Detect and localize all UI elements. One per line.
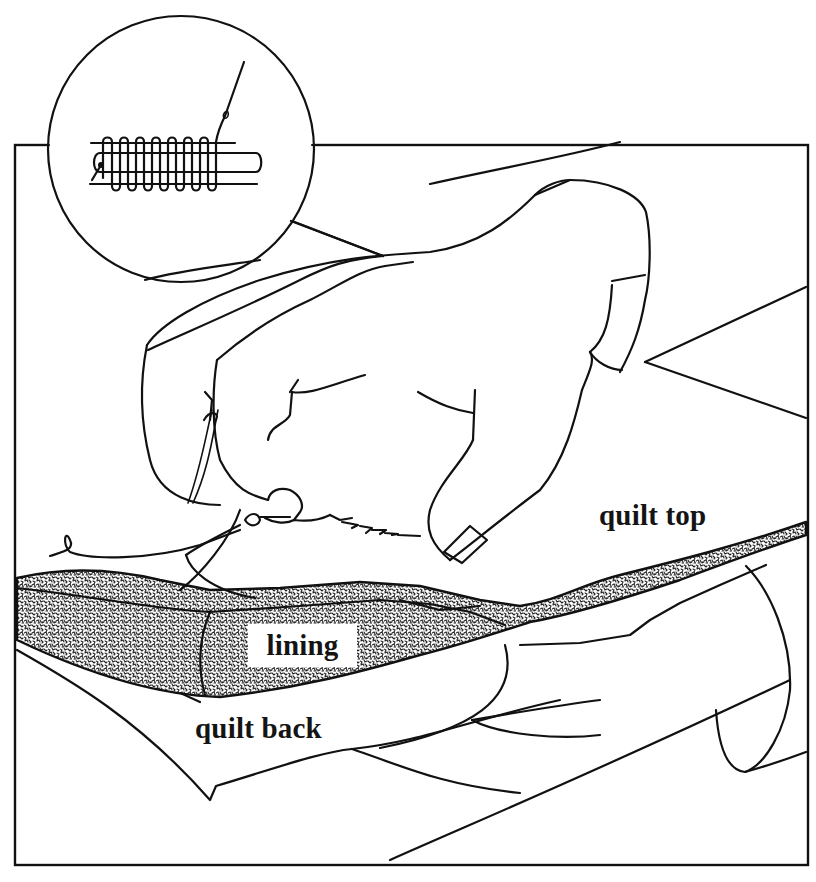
stitch-detail-magnifier	[48, 16, 383, 282]
quilt-back-label: quilt back	[195, 714, 322, 743]
lining-batting	[17, 522, 806, 697]
lining-label-text: lining	[266, 631, 338, 660]
lining-label: lining	[248, 624, 357, 667]
left-hand-outline	[180, 510, 255, 598]
quilting-illustration	[0, 0, 816, 882]
quilt-top-label: quilt top	[599, 501, 706, 530]
loose-thread	[50, 530, 240, 557]
stitch-line	[330, 515, 420, 536]
